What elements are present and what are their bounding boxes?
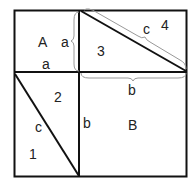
region-label-2: 2 [54, 89, 62, 105]
edge-label-a-brace: a [61, 34, 69, 50]
brace-a-vertical [71, 12, 79, 71]
edge-label-b-left: b [83, 115, 91, 131]
diagonal-top-right [81, 11, 186, 71]
region-label-4: 4 [161, 17, 169, 33]
region-label-3: 3 [97, 43, 105, 59]
region-label-A: A [38, 34, 48, 50]
pythagorean-diagram: A a a 3 c 4 b 2 b B c 1 [0, 0, 195, 186]
diagonal-bottom-left [15, 74, 79, 176]
brace-c-diagonal [84, 9, 186, 69]
region-label-1: 1 [29, 146, 37, 162]
region-label-B: B [128, 117, 137, 133]
edge-label-c-brace: c [143, 21, 150, 37]
brace-b-horizontal [81, 73, 186, 81]
edge-label-c-left: c [35, 119, 42, 135]
edge-label-b-brace: b [128, 82, 136, 98]
edge-label-a-bottom: a [42, 56, 50, 72]
